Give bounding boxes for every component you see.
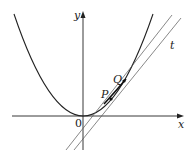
- origin-label: 0: [75, 117, 82, 130]
- diagram-canvas: P Q t y x 0: [0, 0, 187, 154]
- y-axis-arrow-icon: [81, 11, 86, 18]
- point-p-label: P: [100, 88, 109, 101]
- point-p: [109, 97, 112, 100]
- x-axis-label: x: [178, 118, 185, 131]
- tangent-line-t: [74, 18, 181, 150]
- point-q-label: Q: [113, 73, 122, 86]
- tangent-label: t: [170, 39, 175, 52]
- parabola-curve: [14, 14, 153, 116]
- point-q: [122, 79, 125, 82]
- y-axis-label: y: [73, 9, 81, 22]
